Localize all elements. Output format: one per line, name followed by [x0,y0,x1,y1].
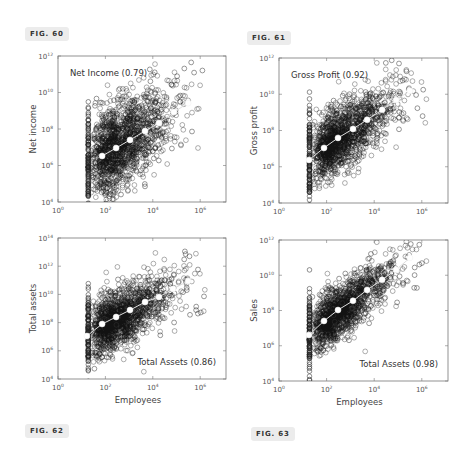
svg-text:1010: 1010 [38,88,53,97]
svg-text:102: 102 [321,385,333,394]
trend-dot [407,88,413,94]
svg-text:100: 100 [52,206,64,215]
trend-dot [379,277,385,283]
chart-panel-0: 10410610810101012100102104106Net incomeN… [28,38,226,232]
trend-dot [364,117,370,123]
trend-dot [185,100,191,106]
trend-dot [350,298,356,304]
svg-text:100: 100 [52,383,64,392]
correlation-annotation: Net Income (0.79) [70,68,147,78]
svg-text:102: 102 [100,383,112,392]
trend-dot [393,267,399,273]
svg-text:108: 108 [262,306,274,315]
x-axis-label: Employees [115,395,162,405]
scatter-plots: 10410610810101012100102104106Net incomeN… [0,0,473,464]
trend-dot [171,109,177,115]
y-axis-label: Net income [28,105,38,154]
svg-text:106: 106 [416,385,428,394]
svg-text:108: 108 [41,125,53,134]
trend-dot [170,286,176,292]
svg-text:1010: 1010 [259,90,274,99]
trend-dot [393,97,399,103]
svg-text:108: 108 [41,318,53,327]
svg-text:106: 106 [194,383,206,392]
trend-dot [335,307,341,313]
trend-dot [113,314,119,320]
svg-text:102: 102 [100,206,112,215]
svg-text:104: 104 [147,383,159,392]
y-axis-label: Gross profit [249,105,259,155]
y-axis-label: Sales [249,299,259,322]
trend-dot [335,135,341,141]
trend-dot [321,145,327,151]
trend-dot [185,278,191,284]
svg-text:1012: 1012 [259,54,274,63]
svg-text:104: 104 [41,198,53,207]
correlation-annotation: Total Assets (0.98) [359,359,438,369]
svg-text:1014: 1014 [38,234,53,243]
svg-text:1012: 1012 [259,236,274,245]
trend-dot [350,126,356,132]
trend-dot [113,145,119,151]
trend-dot [99,321,105,327]
svg-text:104: 104 [262,199,274,208]
svg-text:1012: 1012 [38,52,53,61]
chart-panel-3: 10410610810101012100102104106SalesEmploy… [249,216,448,407]
correlation-annotation: Gross Profit (0.92) [291,70,368,80]
svg-text:104: 104 [262,377,274,386]
svg-text:102: 102 [321,207,333,216]
svg-text:106: 106 [41,161,53,170]
svg-text:1012: 1012 [38,262,53,271]
trend-dot [142,128,148,134]
trend-dot [84,333,90,339]
trend-dot [156,294,162,300]
svg-text:106: 106 [262,162,274,171]
trend-dot [379,107,385,113]
trend-dot [99,153,105,159]
correlation-annotation: Total Assets (0.86) [137,357,216,367]
trend-dot [142,299,148,305]
y-axis-label: Total assets [28,283,38,334]
trend-dot [306,157,312,163]
svg-text:108: 108 [262,126,274,135]
svg-text:106: 106 [262,341,274,350]
x-axis-label: Employees [336,397,383,407]
svg-text:100: 100 [273,385,285,394]
svg-text:1010: 1010 [259,271,274,280]
trend-dot [127,137,133,143]
svg-text:106: 106 [194,206,206,215]
trend-dot [407,255,413,261]
trend-dot [306,332,312,338]
trend-dot [127,307,133,313]
svg-text:106: 106 [41,346,53,355]
svg-text:106: 106 [416,207,428,216]
svg-text:100: 100 [273,207,285,216]
trend-dot [364,287,370,293]
trend-dot [321,318,327,324]
chart-panel-1: 10410610810101012100102104106Gross profi… [249,48,448,217]
svg-text:104: 104 [368,385,380,394]
svg-text:104: 104 [41,375,53,384]
svg-text:1010: 1010 [38,290,53,299]
svg-text:104: 104 [368,207,380,216]
svg-text:104: 104 [147,206,159,215]
trend-dot [156,120,162,126]
chart-panel-2: 104106108101010121014100102104106Total a… [28,232,226,405]
